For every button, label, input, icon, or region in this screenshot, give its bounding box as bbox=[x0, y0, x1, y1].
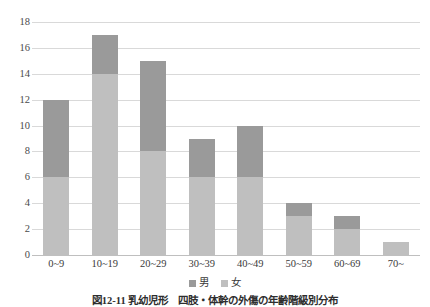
bar-stack[interactable] bbox=[92, 35, 118, 255]
square-swatch-icon bbox=[189, 280, 196, 287]
bar-stack[interactable] bbox=[43, 100, 69, 255]
bar-segment-male[interactable] bbox=[189, 139, 215, 178]
bar-series-group bbox=[32, 22, 420, 255]
bar-segment-male[interactable] bbox=[92, 35, 118, 74]
bar-group[interactable] bbox=[275, 22, 324, 255]
bar-group[interactable] bbox=[226, 22, 275, 255]
square-swatch-icon bbox=[221, 280, 228, 287]
legend-item-label: 男 bbox=[199, 278, 209, 289]
bar-stack[interactable] bbox=[334, 216, 360, 255]
bar-segment-male[interactable] bbox=[43, 100, 69, 178]
y-axis-tick-label: 18 bbox=[4, 17, 30, 28]
x-axis-tick-label: 30~39 bbox=[178, 258, 227, 271]
bar-segment-female[interactable] bbox=[334, 229, 360, 255]
y-axis-tick-label: 14 bbox=[4, 69, 30, 80]
y-axis-tick-label: 4 bbox=[4, 198, 30, 209]
legend-item[interactable]: 男 bbox=[189, 278, 209, 289]
x-axis-tick-label: 60~69 bbox=[323, 258, 372, 271]
x-axis-tick-label: 70~ bbox=[372, 258, 421, 271]
legend-item[interactable]: 女 bbox=[221, 278, 241, 289]
x-axis-tick-label: 50~59 bbox=[275, 258, 324, 271]
y-axis-tick-label: 8 bbox=[4, 146, 30, 157]
chart-legend: 男女 bbox=[0, 278, 430, 289]
bar-stack[interactable] bbox=[383, 242, 409, 255]
bar-segment-female[interactable] bbox=[92, 74, 118, 255]
bar-group[interactable] bbox=[32, 22, 81, 255]
bar-segment-female[interactable] bbox=[140, 151, 166, 255]
bar-stack[interactable] bbox=[237, 126, 263, 255]
bar-segment-male[interactable] bbox=[140, 61, 166, 152]
y-axis-tick-label: 12 bbox=[4, 94, 30, 105]
bar-group[interactable] bbox=[178, 22, 227, 255]
y-axis: 181614121086420 bbox=[0, 22, 30, 255]
bar-segment-female[interactable] bbox=[383, 242, 409, 255]
x-axis-tick-label: 10~19 bbox=[81, 258, 130, 271]
bar-stack[interactable] bbox=[140, 61, 166, 255]
legend-item-label: 女 bbox=[231, 278, 241, 289]
gridline bbox=[32, 255, 420, 256]
bar-stack[interactable] bbox=[189, 139, 215, 255]
bar-segment-male[interactable] bbox=[334, 216, 360, 229]
bar-segment-female[interactable] bbox=[237, 177, 263, 255]
bar-segment-female[interactable] bbox=[43, 177, 69, 255]
plot-area bbox=[32, 22, 420, 255]
bar-group[interactable] bbox=[323, 22, 372, 255]
y-axis-tick-label: 2 bbox=[4, 224, 30, 235]
y-axis-tick-label: 16 bbox=[4, 43, 30, 54]
y-axis-tick-label: 0 bbox=[4, 250, 30, 261]
bar-segment-female[interactable] bbox=[189, 177, 215, 255]
x-axis-tick-label: 0~9 bbox=[32, 258, 81, 271]
bar-stack[interactable] bbox=[286, 203, 312, 255]
figure-container: 181614121086420 0~910~1920~2930~3940~495… bbox=[0, 0, 430, 307]
x-axis-tick-label: 20~29 bbox=[129, 258, 178, 271]
bar-group[interactable] bbox=[81, 22, 130, 255]
bar-group[interactable] bbox=[372, 22, 421, 255]
x-axis-tick-label: 40~49 bbox=[226, 258, 275, 271]
y-axis-tick-label: 10 bbox=[4, 120, 30, 131]
figure-caption: 図12-11 乳幼児形 四肢・体幹の外傷の年齢階級別分布 bbox=[0, 295, 430, 307]
bar-group[interactable] bbox=[129, 22, 178, 255]
bar-segment-male[interactable] bbox=[286, 203, 312, 216]
bar-segment-female[interactable] bbox=[286, 216, 312, 255]
bar-segment-male[interactable] bbox=[237, 126, 263, 178]
x-axis: 0~910~1920~2930~3940~4950~5960~6970~ bbox=[32, 258, 420, 271]
y-axis-tick-label: 6 bbox=[4, 172, 30, 183]
